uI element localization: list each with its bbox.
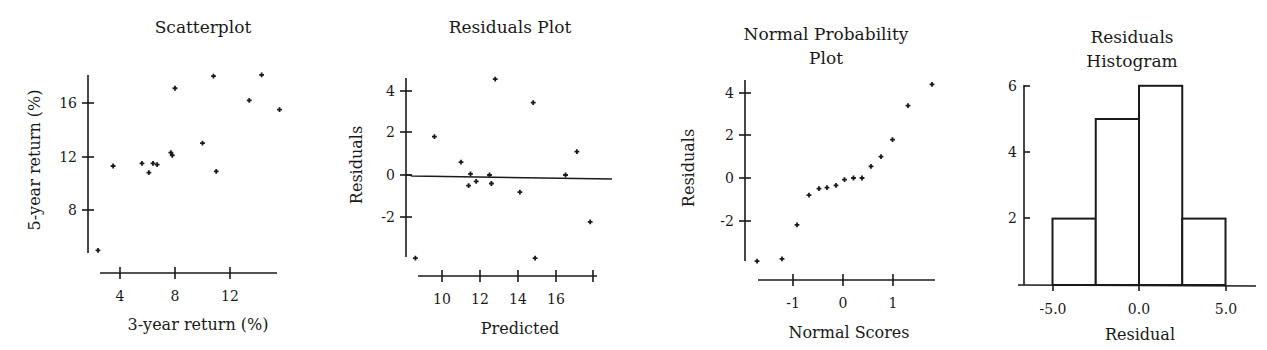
data-point: [413, 256, 418, 261]
histogram-bar: [1139, 86, 1182, 285]
histogram-bar: [1053, 219, 1096, 285]
data-point: [489, 181, 494, 186]
chart-title-line2: Histogram: [1086, 51, 1177, 71]
y-tick-label: 4: [1008, 144, 1017, 160]
data-point: [890, 137, 895, 142]
x-axis-label: Residual: [1105, 325, 1175, 344]
data-point: [474, 179, 479, 184]
y-axis-label: Residuals: [347, 126, 366, 204]
data-point: [140, 161, 145, 166]
data-point: [860, 176, 865, 181]
x-tick-label: 12: [471, 291, 489, 307]
histogram-bar: [1182, 219, 1225, 285]
y-tick-label: -2: [381, 209, 395, 225]
data-point: [96, 248, 101, 253]
data-point: [851, 176, 856, 181]
data-point: [466, 183, 471, 188]
y-tick-label: 2: [725, 127, 734, 143]
data-point: [755, 259, 760, 264]
data-point: [817, 186, 822, 191]
histogram-bars: [1053, 86, 1226, 285]
x-tick-label: 1: [889, 295, 898, 311]
x-tick-label: 4: [116, 288, 125, 304]
data-points: [755, 82, 935, 264]
data-point: [869, 164, 874, 169]
data-point: [834, 183, 839, 188]
data-point: [277, 107, 282, 112]
data-point: [155, 162, 160, 167]
data-point: [807, 193, 812, 198]
data-point: [588, 219, 593, 224]
data-points: [96, 72, 282, 252]
x-tick-label: -1: [786, 295, 800, 311]
chart-title: Scatterplot: [155, 17, 252, 37]
y-axis-label: Residuals: [679, 129, 698, 207]
data-point: [780, 257, 785, 262]
x-tick-label: 8: [171, 288, 180, 304]
residuals-plot-chart: Residuals Plot 4 2 0 -2 Residuals 10 12 …: [347, 17, 612, 338]
data-point: [111, 164, 116, 169]
data-point: [211, 74, 216, 79]
data-point: [930, 82, 935, 87]
data-point: [842, 177, 847, 182]
data-point: [795, 222, 800, 227]
data-point: [432, 134, 437, 139]
data-point: [563, 173, 568, 178]
x-axis-label: 3-year return (%): [128, 315, 269, 334]
data-point: [459, 160, 464, 165]
data-point: [879, 154, 884, 159]
y-tick-label: 6: [1008, 78, 1017, 94]
data-point: [825, 185, 830, 190]
x-tick-label: 0: [839, 295, 848, 311]
data-point: [151, 161, 156, 166]
y-tick-label: 8: [68, 202, 77, 218]
y-axis-label: 5-year return (%): [25, 90, 44, 231]
y-tick-label: 2: [1008, 210, 1017, 226]
data-point: [493, 77, 498, 82]
y-tick-label: 0: [386, 167, 395, 183]
data-point: [575, 149, 580, 154]
y-tick-label: 12: [59, 149, 77, 165]
x-tick-label: -5.0: [1040, 301, 1067, 317]
data-point: [200, 141, 205, 146]
chart-title: Normal Probability: [744, 24, 909, 44]
chart-title: Residuals: [1090, 27, 1173, 47]
chart-title-line2: Plot: [809, 48, 843, 68]
scatterplot-chart: Scatterplot 16 12 8 5-year return (%) 4 …: [25, 17, 282, 334]
data-point: [906, 103, 911, 108]
zero-reference-line: [406, 175, 612, 179]
data-point: [518, 190, 523, 195]
y-tick-label: 2: [386, 124, 395, 140]
x-axis-label: Normal Scores: [788, 323, 909, 342]
y-tick-label: 4: [725, 85, 734, 101]
x-tick-label: 5.0: [1215, 301, 1237, 317]
y-tick-label: -2: [720, 213, 734, 229]
chart-title: Residuals Plot: [449, 17, 572, 37]
data-point: [247, 98, 252, 103]
y-tick-label: 4: [386, 83, 395, 99]
x-tick-label: 10: [433, 291, 451, 307]
y-tick-label: 16: [59, 95, 77, 111]
x-tick-label: 12: [221, 288, 239, 304]
y-tick-label: 0: [725, 170, 734, 186]
x-tick-label: 0.0: [1128, 301, 1150, 317]
chart-panel-figure: Scatterplot 16 12 8 5-year return (%) 4 …: [0, 0, 1267, 350]
x-tick-label: 14: [509, 291, 527, 307]
data-points: [413, 77, 593, 261]
residuals-histogram-chart: Residuals Histogram 6 4 2 -5.0 0.0 5.0 R…: [1008, 27, 1256, 344]
data-point: [468, 172, 473, 177]
histogram-bar: [1096, 119, 1139, 285]
data-point: [214, 169, 219, 174]
data-point: [533, 256, 538, 261]
normal-probability-plot-chart: Normal Probability Plot 4 2 0 -2 Residua…: [679, 24, 935, 342]
data-point: [259, 72, 264, 77]
x-tick-label: 16: [547, 291, 565, 307]
data-point: [531, 100, 536, 105]
data-point: [146, 170, 151, 175]
x-axis-label: Predicted: [481, 319, 559, 338]
data-point: [173, 86, 178, 91]
